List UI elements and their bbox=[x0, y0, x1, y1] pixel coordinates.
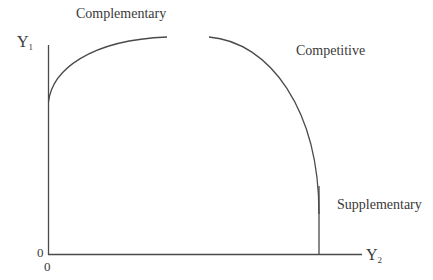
y-axis-label-main: Y bbox=[17, 33, 29, 50]
origin-y-zero: 0 bbox=[37, 246, 44, 259]
competitive-curve bbox=[209, 37, 319, 214]
x-axis-label: Y2 bbox=[366, 247, 382, 265]
complementary-label: Complementary bbox=[76, 7, 166, 21]
y-axis-label: Y1 bbox=[17, 34, 33, 52]
competitive-label: Competitive bbox=[296, 44, 365, 58]
x-axis-label-subscript: 2 bbox=[378, 255, 383, 265]
x-axis-label-main: Y bbox=[366, 246, 378, 263]
supplementary-label: Supplementary bbox=[337, 198, 422, 212]
y-axis-label-subscript: 1 bbox=[29, 42, 34, 52]
complementary-curve bbox=[49, 37, 168, 102]
diagram-canvas bbox=[0, 0, 433, 280]
origin-x-zero: 0 bbox=[44, 260, 51, 273]
